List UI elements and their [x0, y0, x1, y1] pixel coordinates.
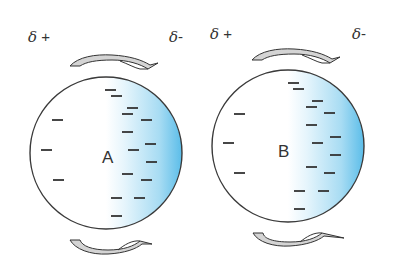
molecule-label-b: B — [278, 142, 289, 161]
rotation-arrow-bottom-a — [70, 240, 152, 254]
molecule-b: B — [212, 70, 364, 222]
molecule-a: A — [30, 77, 182, 229]
diagram-canvas: δ + δ- δ + δ- — [0, 0, 393, 267]
molecule-label-a: A — [102, 148, 114, 167]
rotation-arrow-top-a — [70, 55, 158, 69]
rotation-arrow-bottom-b — [253, 233, 344, 246]
diagram-svg: A — [0, 0, 393, 267]
rotation-arrow-top-b — [252, 49, 340, 63]
